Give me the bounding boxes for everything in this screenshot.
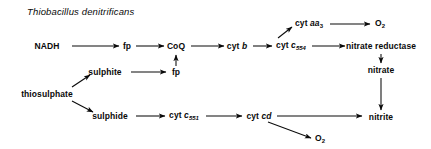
node-nitrite: nitrite xyxy=(369,113,393,122)
node-cyt-cd: cyt cd xyxy=(246,112,271,121)
node-thiosulphate: thiosulphate xyxy=(21,90,73,99)
node-cyt-c554: cyt c554 xyxy=(276,41,306,51)
node-nadh: NADH xyxy=(35,42,60,51)
arrow-thiosulphate-sulphite xyxy=(72,75,90,87)
node-nitrate-reductase: nitrate reductase xyxy=(346,42,416,51)
node-fp-main: fp xyxy=(123,42,131,51)
arrow-layer xyxy=(0,0,431,149)
node-coq: CoQ xyxy=(167,42,185,51)
node-o2-top: O2 xyxy=(375,19,385,29)
node-nitrate: nitrate xyxy=(368,66,395,75)
arrow-cytcd-o2 xyxy=(268,122,311,138)
node-cyt-aa3: cyt aa3 xyxy=(295,19,323,29)
node-sulphide: sulphide xyxy=(92,112,128,121)
arrow-thiosulphate-sulphide xyxy=(72,101,93,112)
node-o2-bottom: O2 xyxy=(315,134,325,144)
arrow-cytc554-cytaa3 xyxy=(278,27,292,38)
pathway-diagram: Thiobacillus denitrificans xyxy=(0,0,431,149)
node-sulphite: sulphite xyxy=(88,68,121,77)
node-fp-sulphite: fp xyxy=(172,68,180,77)
node-cyt-b: cyt b xyxy=(227,42,247,51)
node-cyt-c551: cyt c551 xyxy=(169,111,199,121)
